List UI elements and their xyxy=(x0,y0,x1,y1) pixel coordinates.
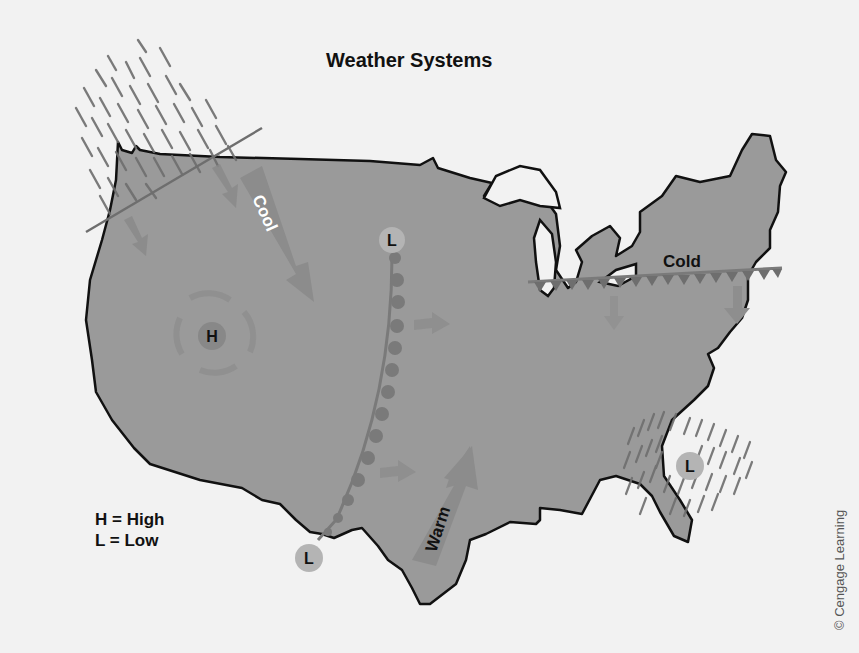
lake-superior xyxy=(484,166,560,208)
map-title: Weather Systems xyxy=(326,49,492,72)
low-pressure-label-south: L xyxy=(304,550,314,567)
legend-high: H = High xyxy=(95,509,164,530)
legend-low: L = Low xyxy=(95,530,164,551)
low-pressure-label-north: L xyxy=(387,232,397,249)
low-pressure-label-southeast: L xyxy=(685,458,695,475)
legend: H = High L = Low xyxy=(95,509,164,551)
copyright-credit: © Cengage Learning xyxy=(832,510,847,630)
cold-front-label: Cold xyxy=(663,252,701,271)
high-pressure-label: H xyxy=(206,328,218,345)
weather-map: Cool H Warm L L Cold xyxy=(0,0,859,653)
